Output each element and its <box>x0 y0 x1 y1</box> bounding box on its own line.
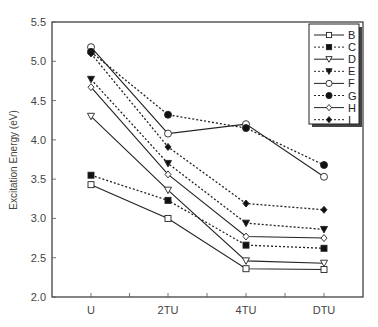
legend-label: H <box>348 102 356 114</box>
legend-label: D <box>348 53 356 65</box>
series-I <box>88 50 327 213</box>
circle-marker-icon <box>165 111 172 118</box>
y-tick-label: 3.0 <box>31 212 46 224</box>
series-H <box>88 84 327 242</box>
legend-label: F <box>348 77 355 89</box>
y-tick-label: 5.0 <box>31 55 46 67</box>
y-tick-label: 5.5 <box>31 16 46 28</box>
square-marker-icon <box>243 242 249 248</box>
line-chart: 2.02.53.03.54.04.55.05.5 U2TU4TUDTU Exci… <box>0 0 378 327</box>
circle-marker-icon <box>321 162 328 169</box>
legend-label: G <box>348 90 357 102</box>
diamond-marker-icon <box>243 200 249 207</box>
legend: BCDEFGHI <box>309 24 362 127</box>
y-axis-title: Excitation Energy (eV) <box>8 110 19 210</box>
series-G <box>88 48 328 168</box>
y-tick-label: 4.0 <box>31 134 46 146</box>
y-tick-label: 2.0 <box>31 291 46 303</box>
legend-label: E <box>348 65 355 77</box>
y-tick-label: 4.5 <box>31 95 46 107</box>
x-tick-label: 2TU <box>158 304 179 316</box>
circle-marker-icon <box>165 130 172 137</box>
circle-marker-icon <box>243 125 250 132</box>
square-marker-icon <box>326 32 331 37</box>
square-marker-icon <box>165 197 171 203</box>
series-C <box>88 172 327 251</box>
x-tick-label: 4TU <box>236 304 257 316</box>
series-F <box>88 44 328 181</box>
y-tick-label: 2.5 <box>31 252 46 264</box>
x-tick-label: U <box>87 304 95 316</box>
square-marker-icon <box>321 245 327 251</box>
square-marker-icon <box>326 45 331 50</box>
diamond-marker-icon <box>321 235 327 242</box>
circle-marker-icon <box>321 173 328 180</box>
legend-label: C <box>348 41 356 53</box>
diamond-marker-icon <box>243 233 249 240</box>
x-tick-label: DTU <box>313 304 336 316</box>
circle-marker-icon <box>326 92 332 98</box>
square-marker-icon <box>88 172 94 178</box>
square-marker-icon <box>165 215 171 221</box>
square-marker-icon <box>88 182 94 188</box>
legend-label: I <box>348 114 351 126</box>
diamond-marker-icon <box>321 206 327 213</box>
y-tick-label: 3.5 <box>31 173 46 185</box>
triangle-marker-icon <box>88 76 95 83</box>
legend-label: B <box>348 29 355 41</box>
data-series <box>88 44 328 273</box>
triangle-marker-icon <box>243 220 250 227</box>
circle-marker-icon <box>326 80 332 86</box>
square-marker-icon <box>243 266 249 272</box>
